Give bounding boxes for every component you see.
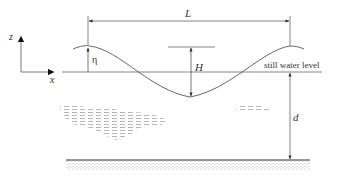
wave-diagram: z x still water level L η H d — [0, 0, 340, 183]
depth-dimension: d — [290, 73, 299, 159]
wavelength-label: L — [184, 7, 191, 19]
wavelength-dimension: L — [88, 7, 290, 46]
coordinate-axes: z x — [8, 31, 55, 85]
depth-label: d — [293, 111, 299, 123]
still-water-level-label: still water level — [264, 60, 320, 70]
z-axis-label: z — [8, 31, 13, 42]
wave-profile — [73, 46, 304, 97]
x-axis-label: x — [49, 74, 55, 85]
surface-elevation-dimension: η — [88, 48, 97, 72]
wave-height-label: H — [194, 61, 204, 73]
wave-height-dimension: H — [168, 47, 215, 96]
water-texture — [60, 104, 270, 140]
seabed — [66, 160, 310, 170]
eta-label: η — [92, 54, 97, 65]
